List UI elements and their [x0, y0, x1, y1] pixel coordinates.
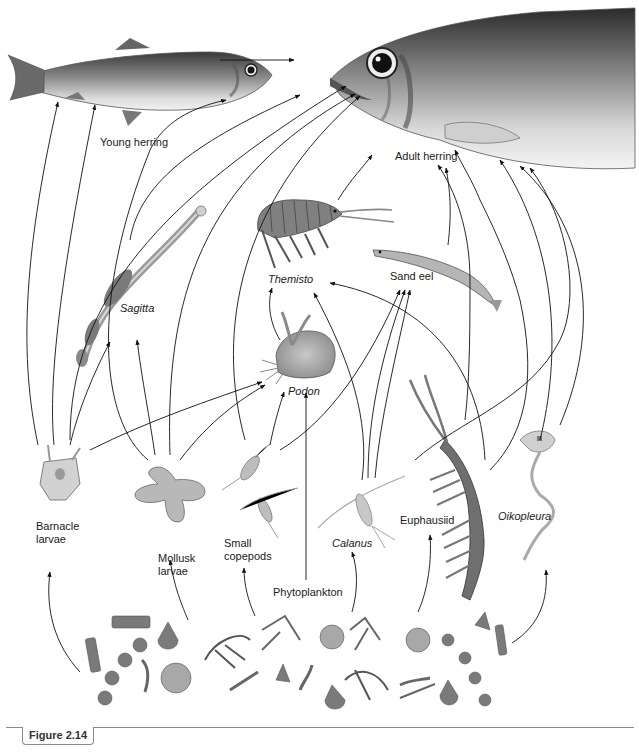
figure-label: Figure 2.14 — [22, 727, 94, 745]
calanus-label: Calanus — [332, 537, 372, 550]
food-web-diagram: Young herring Adult herring Sagitta Them… — [0, 0, 639, 753]
mollusk-larvae-label: Mollusk larvae — [158, 552, 195, 578]
small-copepods-illustration — [222, 444, 298, 538]
food-web-artwork — [0, 0, 639, 753]
oikopleura-illustration — [520, 431, 555, 560]
phytoplankton-illustration — [85, 612, 507, 709]
barnacle-larvae-illustration — [40, 445, 80, 500]
sagitta-label: Sagitta — [120, 302, 154, 315]
adult-herring-illustration — [330, 8, 635, 169]
themisto-illustration — [258, 200, 394, 268]
themisto-label: Themisto — [268, 273, 313, 286]
phytoplankton-label: Phytoplankton — [273, 586, 343, 599]
sagitta-illustration — [76, 206, 206, 367]
young-herring-illustration — [8, 38, 272, 126]
podon-illustration — [260, 312, 335, 384]
oikopleura-label: Oikopleura — [498, 510, 551, 523]
figure-rule — [6, 727, 634, 728]
mollusk-larvae-illustration — [135, 467, 205, 522]
sand-eel-label: Sand eel — [390, 270, 433, 283]
euphausiid-illustration — [410, 375, 484, 600]
euphausiid-label: Euphausiid — [400, 514, 454, 527]
small-copepods-label: Small copepods — [224, 537, 272, 563]
adult-herring-label: Adult herring — [395, 150, 457, 163]
podon-label: Podon — [288, 385, 320, 398]
barnacle-larvae-label: Barnacle larvae — [36, 520, 79, 546]
young-herring-label: Young herring — [100, 136, 168, 149]
